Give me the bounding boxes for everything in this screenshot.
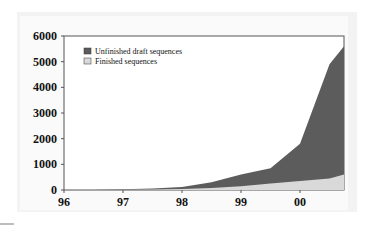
x-tick-label: 97	[117, 195, 129, 209]
y-tick-label: 1000	[33, 157, 57, 171]
y-tick-label: 6000	[33, 29, 57, 43]
y-tick-label: 0	[51, 183, 57, 197]
y-axis: 0100020003000400050006000	[33, 29, 64, 197]
x-tick-label: 99	[235, 195, 247, 209]
y-tick-label: 4000	[33, 80, 57, 94]
legend-label-unfinished: Unfinished draft sequences	[95, 47, 182, 56]
x-tick-label: 00	[294, 195, 306, 209]
area-chart: 0100020003000400050006000 9697989900 Unf…	[0, 0, 376, 230]
legend-swatch-unfinished	[84, 48, 91, 54]
y-tick-label: 2000	[33, 132, 57, 146]
y-tick-label: 5000	[33, 55, 57, 69]
x-tick-label: 98	[176, 195, 188, 209]
x-tick-label: 96	[58, 195, 70, 209]
x-axis: 9697989900	[58, 190, 306, 209]
y-tick-label: 3000	[33, 106, 57, 120]
legend-label-finished: Finished sequences	[95, 57, 157, 66]
legend-swatch-finished	[84, 58, 91, 64]
